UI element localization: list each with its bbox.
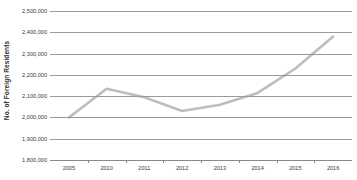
y-tick-label: 2,500,000	[22, 8, 47, 14]
series-line-foreign-residents	[50, 11, 352, 160]
gridline	[50, 54, 352, 55]
gridline	[50, 75, 352, 76]
gridline	[50, 11, 352, 12]
y-tick-label: 2,000,000	[22, 114, 47, 120]
x-tick-label: 2016	[327, 165, 339, 171]
y-axis-title-text: No. of Foreign Residents	[4, 40, 11, 119]
x-tick-label: 2013	[214, 165, 226, 171]
x-tick-mark	[277, 160, 278, 163]
gridline	[50, 32, 352, 33]
y-axis-tick-labels: 2,500,0002,400,0002,300,0002,200,0002,10…	[14, 0, 50, 160]
y-tick-label: 2,300,000	[22, 51, 47, 57]
x-tick-label: 2010	[100, 165, 112, 171]
x-tick-label: 2012	[176, 165, 188, 171]
x-tick-label: 2005	[63, 165, 75, 171]
y-tick-label: 2,400,000	[22, 29, 47, 35]
y-tick-label: 1,900,000	[22, 136, 47, 142]
x-tick-mark	[126, 160, 127, 163]
x-axis: 20052010201120122013201420152016	[50, 160, 352, 180]
gridline	[50, 139, 352, 140]
x-tick-mark	[163, 160, 164, 163]
x-tick-mark	[88, 160, 89, 163]
x-tick-mark	[314, 160, 315, 163]
line-chart: No. of Foreign Residents 2,500,0002,400,…	[0, 0, 357, 180]
plot-area	[50, 11, 352, 160]
gridline	[50, 117, 352, 118]
y-tick-label: 2,100,000	[22, 93, 47, 99]
series-polyline	[69, 37, 333, 118]
y-tick-label: 2,200,000	[22, 72, 47, 78]
x-tick-mark	[201, 160, 202, 163]
x-tick-label: 2014	[251, 165, 263, 171]
y-axis-title: No. of Foreign Residents	[0, 0, 14, 160]
y-tick-label: 1,800,000	[22, 157, 47, 163]
x-tick-label: 2011	[138, 165, 150, 171]
gridline	[50, 96, 352, 97]
x-tick-label: 2015	[289, 165, 301, 171]
x-tick-mark	[239, 160, 240, 163]
